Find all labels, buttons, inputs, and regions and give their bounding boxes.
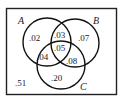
set-label-b: B [93,15,99,26]
region-outside: .51 [15,78,26,88]
region-a-c: .04 [37,52,49,62]
region-b-c: .08 [66,56,78,66]
region-c-only: .20 [51,73,63,83]
region-a-b-c: .05 [54,43,66,53]
region-a-b: .03 [54,30,66,40]
set-label-c: C [80,81,87,92]
region-b-only: .07 [78,33,90,43]
region-a-only: .02 [29,33,40,43]
venn-diagram: A B C .02 .07 .20 .03 .04 .08 .05 .51 [0,0,121,100]
set-label-a: A [17,15,25,26]
